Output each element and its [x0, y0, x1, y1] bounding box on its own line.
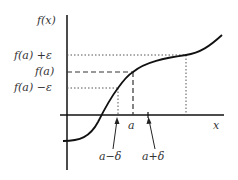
label-a: a — [128, 119, 135, 132]
arrow-a-plus-delta — [149, 120, 155, 149]
label-a-plus-delta: a+δ — [142, 150, 165, 163]
arrowhead-icon — [115, 117, 120, 124]
label-f-a-plus-epsilon: f(a) +ε — [13, 49, 52, 62]
arrowhead-icon — [147, 117, 152, 124]
label-a-minus-delta: a−δ — [99, 150, 122, 163]
arrow-a-minus-delta — [113, 120, 117, 149]
x-axis-label: x — [213, 119, 220, 132]
y-axis-label: f(x) — [36, 14, 56, 27]
label-f-a-minus-epsilon: f(a) −ε — [13, 81, 52, 94]
epsilon-delta-diagram: f(x) f(a) +ε f(a) f(a) −ε a x a−δ a+δ — [0, 0, 238, 180]
function-curve — [63, 35, 222, 141]
label-f-a: f(a) — [34, 65, 54, 78]
